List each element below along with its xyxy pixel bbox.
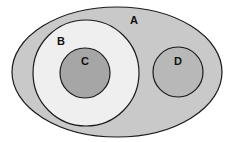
label-b: B [57,35,65,47]
label-d: D [174,55,182,67]
label-a: A [130,14,138,26]
label-c: C [81,55,89,67]
venn-diagram: A B C D [0,0,230,142]
